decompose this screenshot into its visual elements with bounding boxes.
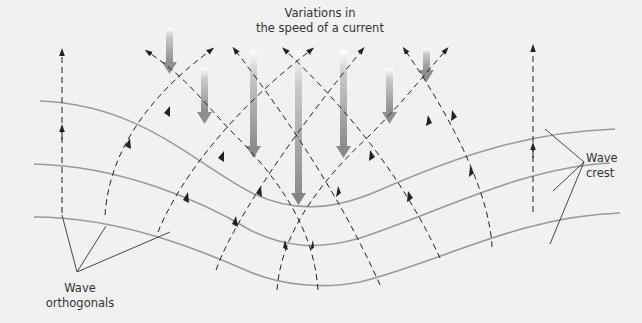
current-arrow [419, 48, 434, 82]
orthogonal-line [277, 50, 446, 290]
orthogonals-leader [62, 215, 77, 272]
orthogonals-leader [77, 226, 106, 272]
wave-refraction-diagram [0, 0, 642, 323]
title-line-1: Variations in [235, 6, 405, 21]
orthogonal-line [105, 50, 211, 215]
crest-leader [553, 162, 584, 191]
wave-orthogonals-label: Wave orthogonals [40, 281, 120, 311]
diagram-title: Variations in the speed of a current [235, 6, 405, 36]
leader-lines [62, 129, 584, 272]
current-arrow [162, 28, 177, 74]
orthogonals-label-line-1: Wave [40, 281, 120, 296]
current-arrow [382, 68, 397, 124]
orthogonals-leader [77, 232, 170, 272]
current-arrow [246, 50, 261, 158]
wave-crest-line [40, 101, 615, 207]
wave-crest-line [34, 213, 620, 286]
orthogonal-line [148, 52, 318, 290]
crest-label-line-2: crest [586, 166, 618, 181]
crest-label-line-1: Wave [586, 151, 618, 166]
orthogonal-line [285, 50, 440, 258]
current-arrow [291, 50, 306, 205]
wave-crests [34, 101, 620, 286]
current-speed-arrows [162, 28, 434, 205]
crest-leader [550, 162, 584, 244]
wave-crest-label: Wave crest [586, 151, 618, 181]
orthogonals-label-line-2: orthogonals [40, 296, 120, 311]
title-line-2: the speed of a current [235, 21, 405, 36]
